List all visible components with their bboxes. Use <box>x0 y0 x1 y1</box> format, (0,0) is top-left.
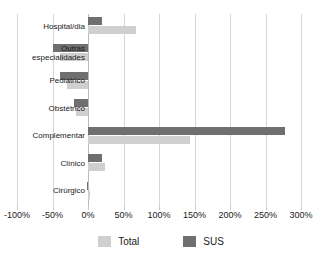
plot-area: Hospital/diaOutras especialidadesPediátr… <box>17 14 301 206</box>
x-tick-label: 0% <box>81 210 94 220</box>
legend-swatch-icon <box>98 236 111 247</box>
x-tick-label: 100% <box>147 210 170 220</box>
x-tick-label: 150% <box>183 210 206 220</box>
bar-total <box>88 191 90 199</box>
bar-sus <box>88 127 285 135</box>
bar-sus <box>87 182 89 190</box>
legend-label: Total <box>118 236 139 247</box>
bar-sus <box>88 154 102 162</box>
category-label: Complementar <box>17 131 85 140</box>
legend-item[interactable]: SUS <box>183 236 224 247</box>
x-tick-label: 200% <box>218 210 241 220</box>
gridline-8 <box>301 14 302 206</box>
x-tick-label: 250% <box>254 210 277 220</box>
bar-sus <box>88 17 102 25</box>
bar-total <box>88 163 105 171</box>
bar-total <box>88 26 136 34</box>
category-label: Hospital/dia <box>17 22 85 31</box>
x-tick-label: 50% <box>114 210 132 220</box>
category-label: Cirúrgico <box>17 186 85 195</box>
legend-label: SUS <box>203 236 224 247</box>
x-tick-label: -100% <box>4 210 30 220</box>
category-label: Obstétrico <box>17 104 85 113</box>
legend-swatch-icon <box>183 236 196 247</box>
x-tick-label: -50% <box>42 210 63 220</box>
category-label: Outras especialidades <box>17 44 85 62</box>
x-axis: -100%-50%0%50%100%150%200%250%300% <box>17 206 301 222</box>
bar-chart: Hospital/diaOutras especialidadesPediátr… <box>0 0 322 259</box>
category-label: Clínico <box>17 159 85 168</box>
bar-total <box>88 136 190 144</box>
legend-item[interactable]: Total <box>98 236 139 247</box>
x-tick-label: 300% <box>289 210 312 220</box>
chart-legend: TotalSUS <box>0 232 322 250</box>
category-label: Pediátrico <box>17 76 85 85</box>
